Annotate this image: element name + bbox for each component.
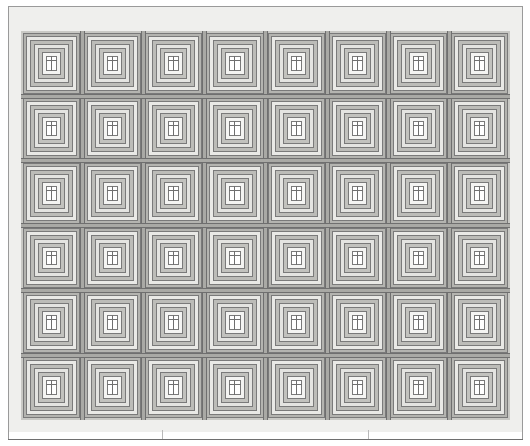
block-center-bar-vertical <box>357 251 358 266</box>
log-cabin-block <box>204 31 265 96</box>
log-cabin-block <box>82 226 143 291</box>
log-cabin-block <box>143 96 204 161</box>
log-cabin-block <box>143 226 204 291</box>
sashing-horizontal-edge-5-2 <box>21 357 510 358</box>
log-cabin-block <box>82 355 143 420</box>
log-cabin-block <box>21 96 82 161</box>
log-cabin-block <box>143 161 204 226</box>
block-center-bar-vertical <box>51 121 52 136</box>
log-cabin-block <box>82 96 143 161</box>
log-cabin-block <box>143 31 204 96</box>
block-center-bar-vertical <box>112 380 113 395</box>
block-center-bar-vertical <box>112 315 113 330</box>
block-center-bar-vertical <box>173 121 174 136</box>
quilt-layout-canvas <box>0 0 530 446</box>
log-cabin-block <box>204 161 265 226</box>
log-cabin-block <box>388 355 449 420</box>
block-center-bar-vertical <box>234 380 235 395</box>
log-cabin-block <box>266 31 327 96</box>
block-center-bar-vertical <box>173 380 174 395</box>
log-cabin-block <box>143 290 204 355</box>
block-center-bar-vertical <box>173 315 174 330</box>
log-cabin-block <box>266 226 327 291</box>
block-center-bar-vertical <box>357 186 358 201</box>
block-center-bar-vertical <box>112 56 113 71</box>
block-center-bar-vertical <box>357 56 358 71</box>
log-cabin-block <box>82 290 143 355</box>
block-center-bar-vertical <box>234 56 235 71</box>
log-cabin-block <box>204 96 265 161</box>
block-center-bar-vertical <box>296 121 297 136</box>
sashing-horizontal-edge-1-2 <box>21 98 510 99</box>
log-cabin-block <box>204 226 265 291</box>
log-cabin-block <box>266 290 327 355</box>
block-center-bar-vertical <box>296 380 297 395</box>
page-rule-right <box>522 6 523 440</box>
block-center-bar-vertical <box>234 251 235 266</box>
block-center-bar-vertical <box>479 251 480 266</box>
sashing-horizontal-edge-4-2 <box>21 292 510 293</box>
block-center-bar-vertical <box>296 251 297 266</box>
log-cabin-block <box>388 290 449 355</box>
block-center-bar-vertical <box>479 121 480 136</box>
sashing-horizontal-edge-4-1 <box>21 288 510 289</box>
log-cabin-block <box>82 31 143 96</box>
block-center-bar-vertical <box>418 251 419 266</box>
log-cabin-block <box>449 31 510 96</box>
block-center-bar-vertical <box>479 315 480 330</box>
block-center-bar-vertical <box>173 56 174 71</box>
sashing-horizontal-edge-3-2 <box>21 227 510 228</box>
log-cabin-block <box>327 161 388 226</box>
block-center-bar-vertical <box>418 380 419 395</box>
sashing-horizontal-edge-2-1 <box>21 158 510 159</box>
block-center-bar-vertical <box>479 186 480 201</box>
log-cabin-block <box>388 31 449 96</box>
block-center-bar-vertical <box>234 315 235 330</box>
block-center-bar-vertical <box>173 186 174 201</box>
measure-tick-1 <box>162 430 163 439</box>
block-center-bar-vertical <box>296 56 297 71</box>
block-center-bar-vertical <box>418 121 419 136</box>
log-cabin-block <box>204 355 265 420</box>
block-center-bar-vertical <box>418 315 419 330</box>
measure-tick-2 <box>368 430 369 439</box>
block-center-bar-vertical <box>357 380 358 395</box>
log-cabin-block <box>327 31 388 96</box>
log-cabin-block <box>266 355 327 420</box>
block-center-bar-vertical <box>51 251 52 266</box>
block-center-bar-vertical <box>479 56 480 71</box>
sashing-horizontal-edge-5-1 <box>21 353 510 354</box>
log-cabin-block <box>143 355 204 420</box>
log-cabin-block <box>327 355 388 420</box>
sashing-horizontal-edge-2-2 <box>21 162 510 163</box>
block-center-bar-vertical <box>51 56 52 71</box>
log-cabin-block <box>204 290 265 355</box>
log-cabin-block <box>388 226 449 291</box>
block-center-bar-vertical <box>51 380 52 395</box>
block-center-bar-vertical <box>296 315 297 330</box>
log-cabin-block <box>388 161 449 226</box>
log-cabin-block <box>449 290 510 355</box>
block-center-bar-vertical <box>234 186 235 201</box>
sashing-horizontal-edge-1-1 <box>21 94 510 95</box>
log-cabin-block <box>449 161 510 226</box>
log-cabin-block <box>266 96 327 161</box>
block-center-bar-vertical <box>112 121 113 136</box>
block-center-bar-vertical <box>51 315 52 330</box>
log-cabin-block <box>21 290 82 355</box>
block-center-bar-vertical <box>479 380 480 395</box>
block-center-bar-vertical <box>357 315 358 330</box>
log-cabin-block <box>449 96 510 161</box>
block-center-bar-vertical <box>418 186 419 201</box>
block-center-bar-vertical <box>357 121 358 136</box>
block-center-bar-vertical <box>112 251 113 266</box>
log-cabin-block <box>327 96 388 161</box>
log-cabin-block <box>449 355 510 420</box>
block-center-bar-vertical <box>418 56 419 71</box>
log-cabin-block <box>21 161 82 226</box>
log-cabin-block <box>21 31 82 96</box>
log-cabin-block <box>21 355 82 420</box>
block-center-bar-vertical <box>112 186 113 201</box>
log-cabin-block <box>21 226 82 291</box>
log-cabin-block <box>266 161 327 226</box>
